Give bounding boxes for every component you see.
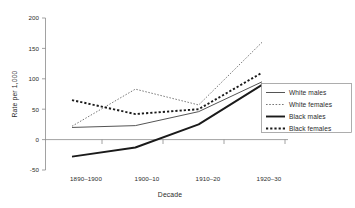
y-tick-label-150: 150: [28, 45, 39, 52]
y-tick-label-0: 0: [35, 136, 39, 143]
series-line-white-females: [72, 42, 262, 126]
y-tick-label-100: 100: [28, 75, 39, 82]
chart-canvas: 200 150 100 50 0 -50 Rate per 1,000 1890…: [0, 0, 355, 208]
legend-label-black-males: Black males: [289, 113, 326, 120]
y-tick-label-200: 200: [28, 14, 39, 21]
legend: White males White females Black males Bl…: [262, 84, 352, 133]
y-axis-title: Rate per 1,000: [11, 70, 19, 117]
legend-label-white-females: White females: [289, 101, 333, 108]
x-tick-label-1910-20: 1910–20: [196, 175, 221, 182]
x-tick-label-1920-30: 1920–30: [257, 175, 282, 182]
line-chart: 200 150 100 50 0 -50 Rate per 1,000 1890…: [0, 0, 355, 208]
legend-label-white-males: White males: [289, 89, 327, 96]
y-tick-label-50: 50: [32, 106, 40, 113]
series-line-black-females: [72, 73, 262, 114]
x-tick-label-1900-10: 1900–10: [135, 175, 160, 182]
x-tick-label-1890-1900: 1890–1900: [70, 175, 102, 182]
x-axis-title: Decade: [158, 191, 182, 198]
legend-label-black-females: Black females: [289, 125, 332, 132]
y-tick-label-neg50: -50: [30, 166, 40, 173]
